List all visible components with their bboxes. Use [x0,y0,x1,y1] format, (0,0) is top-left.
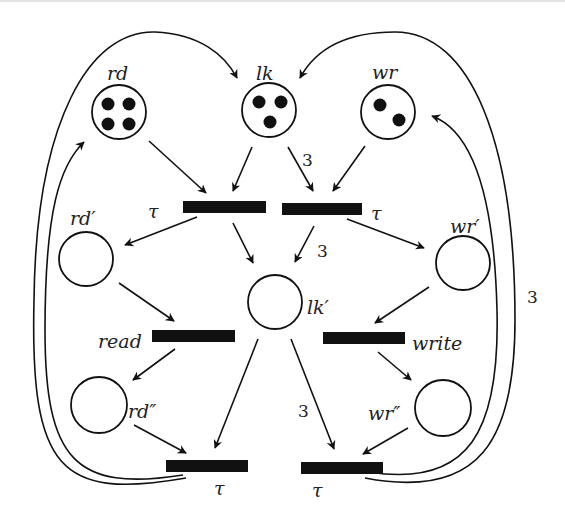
place-label-rd: rd [107,62,128,84]
place-wr-prime: wr′ [436,215,490,290]
token [123,118,136,131]
transition-label: τ [371,202,382,224]
transition-label: τ [312,479,323,501]
arc-tau-to-rd-prime [125,217,197,245]
weight-label: 3 [527,287,538,307]
arc-write-to-wr-double-prime [378,352,411,380]
transition-label-read: read [98,330,142,352]
arc-rd-to-tau [149,141,206,193]
arc-rd-prime-to-read [119,283,174,321]
place-label-wr-double-prime: wr″ [368,402,400,424]
token [374,99,387,112]
token [264,116,277,129]
transition-read: read [98,330,235,352]
arc-tau-to-wr-prime [347,219,424,248]
weight-label: 3 [298,401,309,421]
token [123,98,136,111]
arc-lk-prime-to-tau-3 [291,339,334,449]
arc-wr-to-tau [333,146,365,191]
arc-read-to-rd-double-prime [133,349,175,380]
arc-lk-prime-to-tau [215,339,258,448]
place-label-wr-prime: wr′ [450,215,480,237]
transition-label: τ [214,477,225,499]
place-lk: lk [242,62,296,137]
transition-label: τ [148,200,159,222]
petri-net-diagram: rd lk wr rd′ lk′ wr′ rd″ wr″ τ [0,0,565,521]
transition-write: write [323,332,462,354]
transition-label-write: write [412,332,462,354]
token [275,96,288,109]
arc-tau-to-lk-prime-3 [295,226,314,262]
place-lk-prime: lk′ [248,275,330,329]
arc-rd-double-prime-to-tau [134,425,186,453]
arc-wr-prime-to-write [375,287,429,323]
place-label-lk: lk [256,62,274,84]
place-wr: wr [361,61,415,139]
arc-lk-to-tau [233,147,252,191]
weight-label: 3 [317,241,328,261]
arc-tau-to-lk-prime [233,223,253,263]
place-label-wr: wr [372,61,399,83]
place-rd: rd [92,62,146,139]
arc-wr-double-prime-to-tau [363,428,408,454]
token [102,98,115,111]
transition-top-left: τ [148,200,266,222]
place-label-rd-double-prime: rd″ [128,400,156,422]
place-label-rd-prime: rd′ [70,207,96,229]
token [253,96,266,109]
place-wr-double-prime: wr″ [368,380,471,436]
place-rd-double-prime: rd″ [71,377,156,433]
weight-label: 3 [302,150,313,170]
token [102,118,115,131]
place-rd-prime: rd′ [59,207,113,286]
token [393,114,406,127]
transition-bottom-right: τ [301,462,383,501]
transition-top-right: τ [282,202,382,224]
place-label-lk-prime: lk′ [307,296,330,318]
